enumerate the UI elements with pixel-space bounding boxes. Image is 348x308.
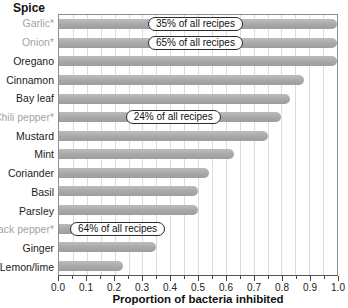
bar (59, 168, 209, 178)
x-axis-tick-label: 0.4 (163, 282, 177, 293)
x-axis-tick-label: 0.5 (191, 282, 205, 293)
bar (59, 242, 156, 252)
bar (59, 261, 123, 271)
minor-tick (128, 276, 129, 279)
x-axis-tick-label: 0.7 (247, 282, 261, 293)
major-tick (310, 276, 311, 281)
minor-tick (240, 276, 241, 279)
y-axis-label: Cinnamon (0, 70, 54, 89)
major-tick (58, 276, 59, 281)
x-axis-tick-label: 0.0 (51, 282, 65, 293)
bar-row (59, 164, 337, 183)
annotation-pill: 24% of all recipes (126, 110, 221, 124)
minor-tick (184, 276, 185, 279)
x-axis-tick-label: 1.0 (331, 282, 345, 293)
y-axis-label: Oregano (0, 51, 54, 70)
major-tick (282, 276, 283, 281)
x-axis-tick-label: 0.6 (219, 282, 233, 293)
bar (59, 205, 198, 215)
y-axis-label: Chili pepper* (0, 108, 54, 127)
bar-row (59, 201, 337, 220)
minor-tick (72, 276, 73, 279)
x-axis-title: Proportion of bacteria inhibited (58, 293, 338, 305)
bar-row: 64% of all recipes (59, 219, 337, 238)
major-tick (114, 276, 115, 281)
major-tick (198, 276, 199, 281)
bar (59, 131, 268, 141)
y-axis-label: Mint (0, 145, 54, 164)
x-axis-tick-label: 0.2 (107, 282, 121, 293)
bar-row (59, 71, 337, 90)
bar-row (59, 238, 337, 257)
bar (59, 94, 290, 104)
bar-rows: 35% of all recipes65% of all recipes24% … (59, 15, 337, 275)
major-tick (142, 276, 143, 281)
y-axis-label: Ginger (0, 239, 54, 258)
y-axis-label: Garlic* (0, 14, 54, 33)
bar (59, 149, 234, 159)
x-axis-tick-label: 0.9 (303, 282, 317, 293)
minor-tick (212, 276, 213, 279)
minor-tick (296, 276, 297, 279)
x-axis-tick-label: 0.1 (79, 282, 93, 293)
minor-tick (268, 276, 269, 279)
plot-area: 35% of all recipes65% of all recipes24% … (58, 14, 338, 276)
bar-row (59, 52, 337, 71)
y-axis-label: Mustard (0, 126, 54, 145)
x-axis-tick-label: 0.3 (135, 282, 149, 293)
major-tick (86, 276, 87, 281)
bar-row (59, 257, 337, 276)
minor-tick (324, 276, 325, 279)
annotation-pill: 35% of all recipes (148, 17, 243, 31)
bar-row: 24% of all recipes (59, 108, 337, 127)
bar-row (59, 182, 337, 201)
y-axis-label: Coriander (0, 164, 54, 183)
y-axis-label: Lemon/lime (0, 257, 54, 276)
bar-row (59, 145, 337, 164)
y-axis-labels: Garlic*Onion*OreganoCinnamonBay leafChil… (0, 14, 54, 276)
bar (59, 75, 304, 85)
annotation-pill: 64% of all recipes (70, 222, 165, 236)
bar-row: 65% of all recipes (59, 34, 337, 53)
x-axis-tick-label: 0.8 (275, 282, 289, 293)
major-tick (226, 276, 227, 281)
bar-row (59, 89, 337, 108)
bar-row: 35% of all recipes (59, 15, 337, 34)
y-axis-label: Basil (0, 182, 54, 201)
bar (59, 186, 198, 196)
major-tick (254, 276, 255, 281)
y-axis-label: Bay leaf (0, 89, 54, 108)
annotation-pill: 65% of all recipes (148, 36, 243, 50)
major-tick (338, 276, 339, 281)
bar-row (59, 126, 337, 145)
y-axis-label: Parsley (0, 201, 54, 220)
y-axis-header: Spice (13, 1, 45, 15)
bar (59, 56, 337, 66)
spice-bacteria-chart: Spice Garlic*Onion*OreganoCinnamonBay le… (0, 0, 348, 308)
y-axis-label: Onion* (0, 33, 54, 52)
y-axis-label: Black pepper* (0, 220, 54, 239)
x-axis-tick-labels: 0.00.10.20.30.40.50.60.70.80.91.0 (58, 282, 338, 293)
major-tick (170, 276, 171, 281)
minor-tick (100, 276, 101, 279)
minor-tick (156, 276, 157, 279)
